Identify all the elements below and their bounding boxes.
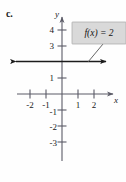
y-tick-label--3: -3	[50, 138, 58, 148]
y-axis-label: y	[54, 9, 59, 19]
x-tick-label-2: 2	[92, 100, 97, 110]
x-axis-label: x	[113, 95, 118, 105]
x-tick-labels: -2 -1 1 2	[26, 100, 96, 110]
y-tick-label-4: 4	[50, 25, 55, 35]
callout-label: f(x) = 2	[84, 28, 113, 39]
x-tick-label-1: 1	[76, 100, 81, 110]
y-tick-label-1: 1	[50, 73, 55, 83]
x-tick-label--2: -2	[26, 100, 34, 110]
callout-annotation: f(x) = 2	[72, 22, 126, 44]
callout-leader-line	[88, 44, 103, 62]
callout-leader	[88, 44, 103, 62]
y-tick-label--1: -1	[50, 107, 58, 117]
y-tick-label--2: -2	[50, 122, 58, 132]
y-tick-label-3: 3	[50, 41, 55, 51]
coordinate-plot: y x -2 -1 1 2 4	[0, 0, 126, 182]
y-tick-labels: 4 3 1 -1 -2 -3	[50, 25, 58, 148]
figure-container: c. y x -2 -1	[0, 0, 126, 182]
